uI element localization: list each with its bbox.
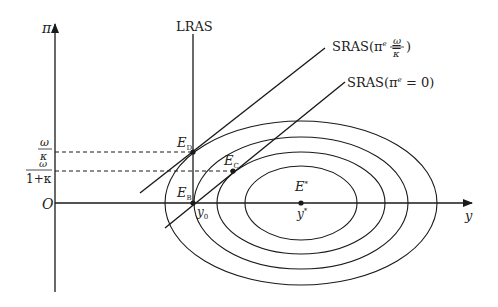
sras-high-prefix: SRAS(π: [332, 39, 383, 54]
sras-high-suffix: ): [406, 39, 411, 54]
label-Estar-main: E: [294, 179, 305, 194]
label-EB: EB: [176, 185, 192, 202]
tick-lower-numerator: ω: [39, 158, 47, 169]
label-ED-main: E: [176, 135, 187, 150]
sras-zero-label: SRAS(πe = 0): [347, 75, 434, 90]
sras-zero-rest: = 0): [402, 75, 435, 90]
sras-high-frac-den: κ: [392, 48, 400, 59]
label-ED-sub: D: [187, 144, 193, 152]
label-EB-main: E: [176, 185, 187, 200]
label-ystar: y*: [296, 207, 308, 221]
tick-lower-denominator: 1+κ: [26, 172, 52, 186]
label-EC: EC: [223, 153, 239, 170]
label-Estar-sup: *: [305, 180, 309, 188]
tick-upper-numerator: ω: [40, 136, 49, 149]
label-ystar-sup: *: [304, 207, 308, 215]
sras-high-frac-num: ω: [393, 35, 401, 46]
label-Estar: E*: [294, 179, 309, 194]
y-axis-label: y: [464, 208, 473, 223]
y-tick-omega-over-one-plus-kappa: ω 1+κ: [26, 158, 52, 186]
label-y0-sub: 0: [204, 213, 208, 221]
lras-label: LRAS: [176, 19, 213, 34]
sras-high-label: SRAS(πe = ω κ ): [332, 35, 411, 59]
origin-label: O: [42, 196, 54, 212]
label-EC-main: E: [223, 153, 234, 168]
sras-zero-prefix: SRAS(π: [347, 75, 398, 90]
diagram-canvas: π y O ω κ ω 1+κ LRAS SRAS(πe = ω κ ) SRA…: [0, 0, 498, 307]
pi-axis-label: π: [41, 20, 52, 36]
svg-text:SRAS(πe =: SRAS(πe =: [332, 39, 402, 54]
sras-zero-line: [165, 82, 345, 228]
point-Estar: [298, 200, 303, 205]
label-ED: ED: [176, 135, 193, 152]
label-EC-sub: C: [234, 162, 239, 170]
label-EB-sub: B: [187, 194, 192, 202]
label-y0: y0: [196, 205, 208, 221]
